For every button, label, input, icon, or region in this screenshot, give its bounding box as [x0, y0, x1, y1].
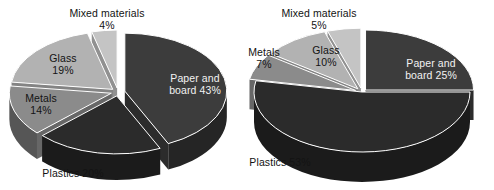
right-label-paper-and-board: Paper and board 25%: [389, 57, 473, 81]
pie-chart-right: Mixed materials 5% Glass 10% Metals 7% P…: [244, 0, 494, 190]
pie-chart-left: Mixed materials 4% Glass 19% Metals 14% …: [0, 0, 250, 190]
right-label-paper-and-board-pct: board 25%: [389, 69, 473, 81]
left-label-paper-and-board-text: Paper and: [170, 72, 219, 84]
left-label-glass: Glass 19%: [36, 52, 90, 76]
left-label-metals: Metals 14%: [14, 92, 68, 116]
left-label-glass-pct: 19%: [36, 64, 90, 76]
right-label-glass: Glass 10%: [301, 44, 351, 68]
left-label-paper-and-board-pct: board 43%: [156, 84, 234, 96]
right-label-plastics: Plastics 53%: [232, 156, 328, 168]
pie-chart-figure: Mixed materials 4% Glass 19% Metals 14% …: [0, 0, 494, 190]
left-label-mixed-materials-pct: 4%: [52, 19, 162, 31]
right-label-plastics-text: Plastics 53%: [249, 156, 310, 168]
right-label-glass-pct: 10%: [301, 56, 351, 68]
right-label-mixed-materials-pct: 5%: [264, 19, 374, 31]
left-label-plastics: Plastics 20%: [25, 167, 121, 179]
left-label-glass-text: Glass: [49, 52, 76, 64]
left-label-mixed-materials: Mixed materials 4%: [52, 7, 162, 31]
right-label-metals-text: Metals: [248, 46, 280, 58]
left-label-plastics-text: Plastics 20%: [42, 167, 103, 179]
left-label-paper-and-board: Paper and board 43%: [156, 72, 234, 96]
left-label-mixed-materials-text: Mixed materials: [69, 7, 144, 19]
right-label-metals-pct: 7%: [239, 58, 289, 70]
right-label-paper-and-board-text: Paper and: [406, 57, 455, 69]
left-label-metals-text: Metals: [25, 92, 57, 104]
right-label-glass-text: Glass: [312, 44, 339, 56]
right-label-metals: Metals 7%: [239, 46, 289, 70]
left-label-metals-pct: 14%: [14, 104, 68, 116]
right-label-mixed-materials: Mixed materials 5%: [264, 7, 374, 31]
right-label-mixed-materials-text: Mixed materials: [281, 7, 356, 19]
